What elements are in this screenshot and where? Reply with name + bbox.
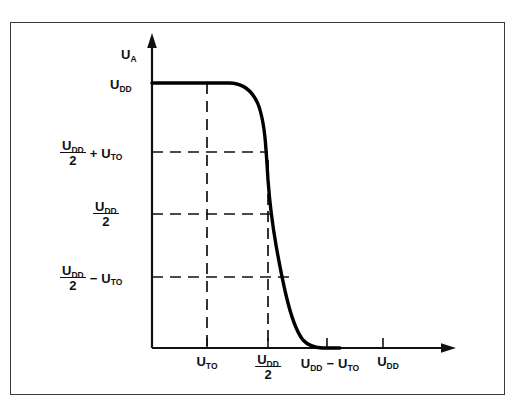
x-axis-arrowhead <box>441 343 456 353</box>
figure-page: UA UDD UDD 2 + UTO UDD 2 <box>0 0 517 411</box>
y-axis-arrowhead <box>147 33 157 48</box>
transfer-curve <box>152 83 340 348</box>
transfer-characteristic-plot <box>0 0 517 411</box>
